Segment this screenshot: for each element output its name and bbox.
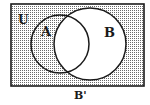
set-b-label: B [104,25,115,40]
set-a-label: A [40,24,52,39]
caption-label: B' [74,89,87,102]
universe-label: U [18,13,29,27]
venn-diagram: U A B B' [0,0,150,105]
